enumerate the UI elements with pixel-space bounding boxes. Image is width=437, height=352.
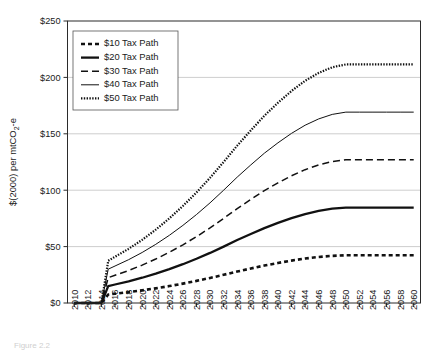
y-axis-tick-labels: $0$50$100$150$200$250 <box>40 16 60 308</box>
x-tick-label: 2024 <box>165 290 175 310</box>
x-tick-label: 2040 <box>273 290 283 310</box>
x-tick-label: 2048 <box>328 290 338 310</box>
tax-path-line-chart: $0$50$100$150$200$250 201020122014201620… <box>0 0 437 352</box>
y-tick-label: $200 <box>40 73 60 83</box>
y-tick-label: $0 <box>50 298 60 308</box>
x-tick-label: 2044 <box>300 290 310 310</box>
legend-label-3: $30 Tax Path <box>104 65 159 76</box>
x-tick-label: 2042 <box>287 290 297 310</box>
x-tick-label: 2026 <box>178 290 188 310</box>
figure-container: $0$50$100$150$200$250 201020122014201620… <box>0 0 437 352</box>
x-tick-label: 2050 <box>341 290 351 310</box>
x-tick-label: 2046 <box>314 290 324 310</box>
y-axis-title-tail: -e <box>7 118 18 126</box>
x-tick-label: 2022 <box>151 290 161 310</box>
y-tick-label: $150 <box>40 129 60 139</box>
x-tick-label: 2052 <box>355 290 365 310</box>
legend-label-2: $20 Tax Path <box>104 51 159 62</box>
x-tick-label: 2028 <box>192 290 202 310</box>
x-tick-label: 2054 <box>368 290 378 310</box>
x-tick-label: 2032 <box>219 290 229 310</box>
legend-label-5: $50 Tax Path <box>104 92 159 103</box>
legend-label-1: $10 Tax Path <box>104 37 159 48</box>
x-tick-label: 2030 <box>205 290 215 310</box>
y-axis-title-main: $(2000) per mtCO <box>7 130 18 206</box>
x-tick-label: 2060 <box>409 290 419 310</box>
y-axis-title: $(2000) per mtCO2-e <box>7 118 20 206</box>
x-tick-label: 2056 <box>382 290 392 310</box>
x-tick-label: 2038 <box>260 290 270 310</box>
legend-label-4: $40 Tax Path <box>104 78 159 89</box>
x-tick-label: 2010 <box>70 290 80 310</box>
y-axis-title-text: $(2000) per mtCO2-e <box>7 118 20 206</box>
chart-legend: $10 Tax Path$20 Tax Path$30 Tax Path$40 … <box>73 31 178 110</box>
x-tick-label: 2020 <box>138 290 148 310</box>
y-axis-ticks <box>64 21 68 303</box>
y-tick-label: $250 <box>40 16 60 26</box>
x-tick-label: 2036 <box>246 290 256 310</box>
y-tick-label: $100 <box>40 186 60 196</box>
x-tick-label: 2034 <box>233 290 243 310</box>
figure-caption: Figure 2.2 <box>14 341 51 350</box>
x-tick-label: 2058 <box>396 290 406 310</box>
y-tick-label: $50 <box>45 242 60 252</box>
x-tick-label: 2012 <box>83 290 93 310</box>
